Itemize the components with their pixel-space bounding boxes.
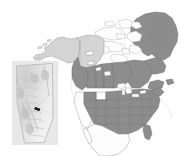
- region-wyoming: [96, 92, 106, 100]
- lake-michigan: [122, 90, 125, 95]
- alberta-inset[interactable]: [12, 61, 58, 145]
- lake-erie: [132, 94, 139, 97]
- inset-marker-site-2[interactable]: [37, 108, 40, 111]
- north-america-map[interactable]: [0, 0, 189, 156]
- lake-winnipeg: [104, 71, 111, 76]
- map-figure: North America study-area map with Albert…: [0, 0, 189, 156]
- region-prairies[interactable]: [94, 63, 114, 88]
